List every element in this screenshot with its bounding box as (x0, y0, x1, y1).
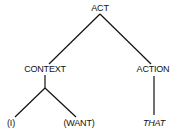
node-act: ACT (91, 3, 108, 13)
edge-context-want (45, 88, 76, 117)
node-context: CONTEXT (24, 64, 66, 74)
node-want: (WANT) (64, 118, 95, 128)
edge-act-action (100, 14, 151, 64)
node-action: ACTION (137, 64, 170, 74)
node-i: (I) (7, 118, 15, 128)
edge-act-context (49, 14, 100, 64)
node-that: THAT (143, 118, 165, 128)
edge-context-i (15, 88, 45, 117)
